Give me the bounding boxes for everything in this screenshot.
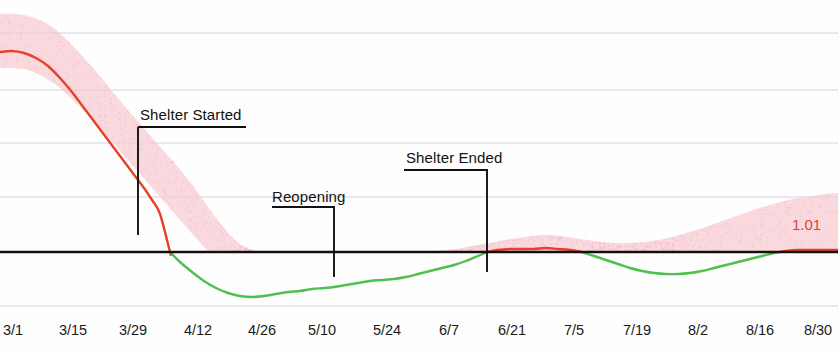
x-tick-label: 8/16 <box>746 322 774 338</box>
x-tick-label: 6/21 <box>498 322 526 338</box>
reproduction-number-chart: 3/13/153/294/124/265/105/246/76/217/57/1… <box>0 0 838 349</box>
credible-interval-area <box>0 14 838 253</box>
x-tick-label: 8/2 <box>688 322 708 338</box>
segment-below-one <box>170 252 487 297</box>
x-tick-label: 5/10 <box>308 322 336 338</box>
x-tick-label: 8/30 <box>804 322 832 338</box>
x-tick-label: 3/1 <box>3 322 23 338</box>
x-axis-tick-labels: 3/13/153/294/124/265/105/246/76/217/57/1… <box>0 322 838 349</box>
r-value-line <box>0 51 838 297</box>
annotation-label-reopening: Reopening <box>272 188 345 205</box>
annotation-label-shelter-ended: Shelter Ended <box>406 149 502 166</box>
end-value-label: 1.01 <box>792 216 821 233</box>
x-tick-label: 6/7 <box>439 322 459 338</box>
x-tick-label: 5/24 <box>373 322 401 338</box>
x-tick-label: 4/26 <box>248 322 276 338</box>
x-tick-label: 7/19 <box>623 322 651 338</box>
x-tick-label: 3/15 <box>59 322 87 338</box>
annotation-label-shelter-started: Shelter Started <box>140 106 242 123</box>
segment-below-one <box>582 252 780 274</box>
x-tick-label: 4/12 <box>184 322 212 338</box>
x-tick-label: 7/5 <box>564 322 584 338</box>
chart-plot-area <box>0 0 838 349</box>
confidence-band <box>0 14 838 253</box>
x-tick-label: 3/29 <box>119 322 147 338</box>
